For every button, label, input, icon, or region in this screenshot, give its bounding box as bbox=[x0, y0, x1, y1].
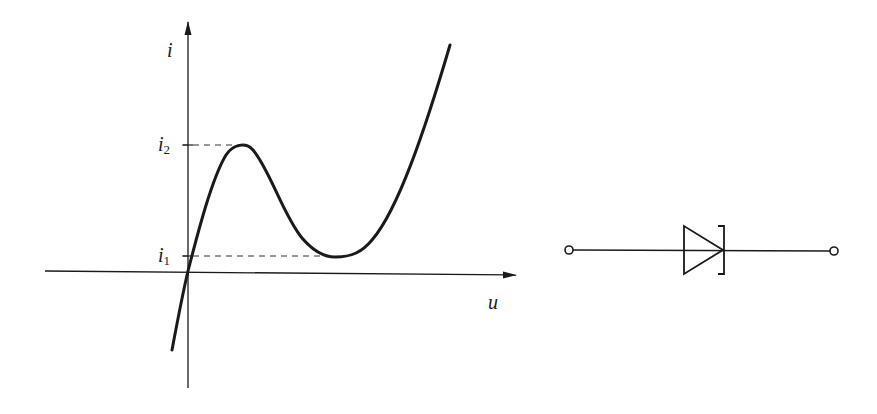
i2-subscript: 2 bbox=[164, 142, 171, 157]
terminal-right bbox=[830, 247, 838, 255]
i-axis-label: i bbox=[167, 40, 173, 60]
terminal-left bbox=[565, 246, 573, 254]
iv-characteristic-curve bbox=[172, 45, 450, 350]
tunnel-diode-symbol bbox=[565, 226, 838, 274]
diode-wire bbox=[573, 250, 830, 251]
i2-label: i2 bbox=[158, 134, 170, 156]
diagram-canvas bbox=[0, 0, 877, 414]
i1-label: i1 bbox=[158, 245, 170, 267]
u-axis-label-text: u bbox=[488, 291, 498, 313]
u-axis-label: u bbox=[488, 292, 498, 312]
u-axis bbox=[45, 271, 516, 275]
i1-subscript: 1 bbox=[164, 253, 171, 268]
i-axis-label-text: i bbox=[167, 39, 173, 61]
